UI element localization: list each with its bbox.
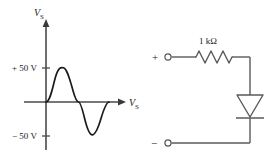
terminal-positive-sign: +	[152, 51, 158, 63]
terminal-negative-node	[165, 140, 171, 146]
y-axis-label: VS	[34, 7, 44, 21]
terminal-negative-sign: −	[151, 137, 157, 149]
y-tick-label-positive: + 50 V	[12, 63, 37, 73]
x-axis-arrowhead	[118, 99, 126, 106]
circuit-diagram: + 1 kΩ −	[151, 36, 264, 149]
figure-svg: VS VS + 50 V − 50 V + 1 kΩ	[0, 0, 270, 166]
y-axis-label-subscript: S	[40, 13, 44, 21]
diode-icon	[237, 95, 263, 117]
waveform-graph: VS VS + 50 V − 50 V	[12, 7, 139, 150]
x-axis-label: VS	[129, 97, 139, 111]
x-axis-label-subscript: S	[135, 103, 139, 111]
y-tick-label-negative: − 50 V	[12, 131, 37, 141]
sine-waveform-path	[46, 68, 109, 135]
terminal-positive-node	[165, 54, 171, 60]
figure-container: VS VS + 50 V − 50 V + 1 kΩ	[0, 0, 270, 166]
resistor-label: 1 kΩ	[199, 36, 217, 46]
resistor-symbol	[196, 51, 232, 63]
